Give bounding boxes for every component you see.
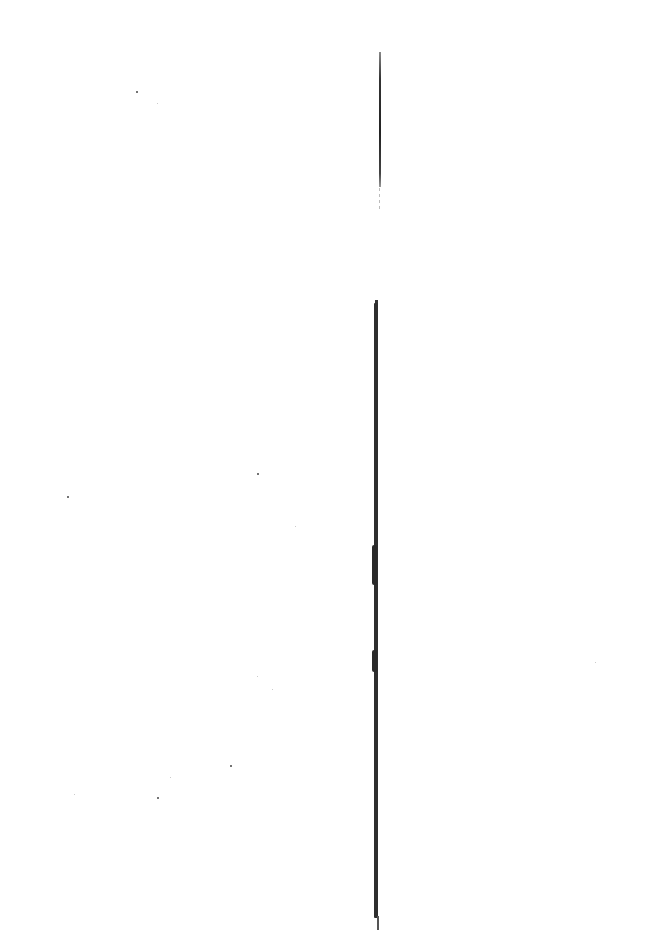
upper-vertical-rule <box>379 52 381 187</box>
scan-speck <box>595 662 596 663</box>
lower-vertical-rule-tail <box>377 916 379 930</box>
scan-speck <box>74 794 75 795</box>
scan-speck <box>295 526 296 527</box>
scan-speck <box>67 496 69 498</box>
lower-vertical-rule-thickening <box>372 545 377 585</box>
lower-vertical-rule <box>374 303 378 918</box>
scan-speck <box>230 765 232 767</box>
lower-vertical-rule-thickening <box>372 650 377 672</box>
scan-speck <box>257 676 258 677</box>
scan-speck <box>170 777 171 778</box>
scan-speck <box>257 473 259 475</box>
scan-speck <box>157 103 158 104</box>
scan-speck <box>136 91 138 93</box>
scan-speck <box>272 689 273 690</box>
scan-speck <box>157 797 159 799</box>
upper-vertical-rule-fade <box>379 188 380 210</box>
scanned-page <box>0 0 667 932</box>
